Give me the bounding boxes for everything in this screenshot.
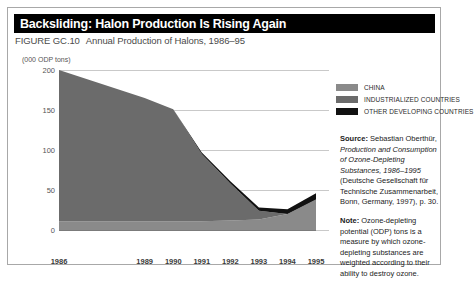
legend-swatch-icon xyxy=(336,84,358,91)
area-series-industrialized-countries xyxy=(59,70,316,221)
source-label: Source: xyxy=(340,134,368,143)
chart-area: (000 ODP tons) 200 150 100 50 0 19861989… xyxy=(15,56,329,261)
y-axis-unit-label: (000 ODP tons) xyxy=(22,56,71,63)
legend-item: CHINA xyxy=(336,84,446,91)
legend-swatch-icon xyxy=(336,108,358,115)
chart-legend: CHINAINDUSTRIALIZED COUNTRIESOTHER DEVEL… xyxy=(336,84,446,120)
x-axis-tick-1989: 1989 xyxy=(136,257,153,266)
plot-wrapper: 200 150 100 50 0 19861989199019911992199… xyxy=(15,70,329,240)
y-tick-0: 0 xyxy=(29,226,55,235)
figure-caption-text: Annual Production of Halons, 1986–95 xyxy=(86,35,245,46)
x-axis-line xyxy=(59,230,316,231)
x-axis-labels: 19861989199019911992199319941995 xyxy=(59,257,329,269)
legend-swatch-icon xyxy=(336,96,358,103)
legend-item: INDUSTRIALIZED COUNTRIES xyxy=(336,96,446,103)
legend-label: OTHER DEVELOPING COUNTRIES xyxy=(364,108,474,115)
x-axis-tick-1995: 1995 xyxy=(308,257,325,266)
x-axis-tick-1993: 1993 xyxy=(251,257,268,266)
y-tick-150: 150 xyxy=(29,106,55,115)
note-text: Ozone-depleting potential (ODP) tons is … xyxy=(340,216,430,278)
x-axis-tick-1992: 1992 xyxy=(222,257,239,266)
figure-container: Backsliding: Halon Production Is Rising … xyxy=(7,7,441,265)
x-axis-tick-1990: 1990 xyxy=(165,257,182,266)
figure-caption-id: FIGURE GC.10 xyxy=(15,35,80,46)
y-tick-50: 50 xyxy=(29,186,55,195)
legend-label: CHINA xyxy=(364,84,385,91)
figure-caption: FIGURE GC.10Annual Production of Halons,… xyxy=(15,35,245,46)
source-title-italic: Production and Consumption of Ozone-Depl… xyxy=(340,145,437,175)
source-text-part1: Sebastian Oberthür, xyxy=(368,134,437,143)
stacked-area-plot xyxy=(59,70,317,231)
figure-title-bar: Backsliding: Halon Production Is Rising … xyxy=(14,14,435,33)
y-tick-100: 100 xyxy=(29,146,55,155)
x-axis-tick-1991: 1991 xyxy=(193,257,210,266)
definition-note: Note: Ozone-depleting potential (ODP) to… xyxy=(340,216,444,279)
legend-item: OTHER DEVELOPING COUNTRIES xyxy=(336,108,446,115)
note-label: Note: xyxy=(340,216,359,225)
legend-label: INDUSTRIALIZED COUNTRIES xyxy=(364,96,460,103)
y-tick-200: 200 xyxy=(29,66,55,75)
source-text-part2: (Deutsche Gesellschaft für Technische Zu… xyxy=(340,176,438,206)
figure-title: Backsliding: Halon Production Is Rising … xyxy=(14,17,286,31)
source-note: Source: Sebastian Oberthür, Production a… xyxy=(340,134,444,208)
x-axis-tick-1986: 1986 xyxy=(51,257,68,266)
x-axis-tick-1994: 1994 xyxy=(279,257,296,266)
